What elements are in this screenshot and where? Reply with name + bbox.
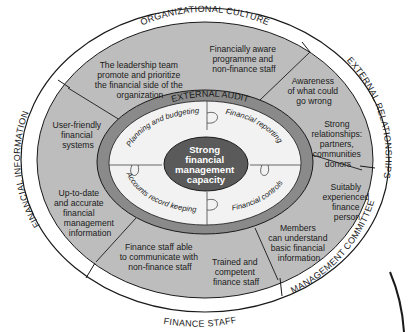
segment-trained: Trained and competent finance staff (212, 257, 260, 287)
segment-financially-aware: Financially aware programme and non-fina… (210, 44, 279, 74)
financial-capacity-diagram: Strong financial management capacity ORG… (0, 0, 412, 332)
segment-communicate: Finance staff able to communicate with n… (120, 242, 201, 272)
decorative-curve (390, 272, 404, 332)
ring-label-finance-staff: FINANCE STAFF (163, 315, 237, 329)
